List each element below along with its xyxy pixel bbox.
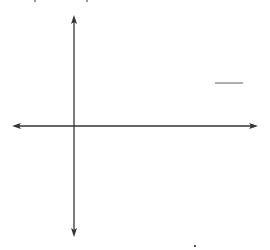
graph	[0, 0, 270, 250]
x-axis	[12, 123, 258, 129]
function-label	[0, 0, 243, 83]
stray-dot	[194, 245, 196, 247]
cropped-text-fragment	[86, 0, 88, 2]
cropped-text-fragment	[34, 0, 36, 2]
